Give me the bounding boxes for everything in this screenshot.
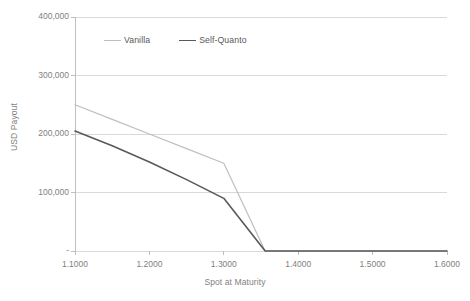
legend-item-vanilla: Vanilla — [104, 35, 150, 45]
y-tick-label: - — [13, 245, 69, 255]
line-chart-plot — [0, 0, 470, 301]
y-axis-title: USD Payout — [9, 82, 19, 172]
x-tick-label: 1.5000 — [338, 259, 408, 269]
x-axis-title: Spot at Maturity — [0, 277, 470, 287]
x-tick-label: 1.6000 — [412, 259, 470, 269]
x-tick-label: 1.3000 — [189, 259, 259, 269]
legend-label: Vanilla — [124, 35, 150, 45]
legend-line-swatch-icon — [104, 40, 121, 41]
y-tick-label: 100,000 — [13, 187, 69, 197]
legend-item-self-quanto: Self-Quanto — [179, 35, 246, 45]
legend-line-swatch-icon — [179, 40, 196, 41]
series-line-vanilla — [75, 105, 447, 251]
y-tick-label: 200,000 — [13, 128, 69, 138]
x-tick-label: 1.2000 — [114, 259, 184, 269]
x-tick-label: 1.1000 — [40, 259, 110, 269]
y-tick-label: 400,000 — [13, 11, 69, 21]
y-tick-label: 300,000 — [13, 70, 69, 80]
chart-legend: VanillaSelf-Quanto — [104, 35, 247, 45]
chart-container: USD Payout Spot at Maturity -100,000200,… — [0, 0, 470, 301]
legend-label: Self-Quanto — [199, 35, 246, 45]
x-tick-label: 1.4000 — [263, 259, 333, 269]
series-line-self-quanto — [75, 131, 447, 251]
